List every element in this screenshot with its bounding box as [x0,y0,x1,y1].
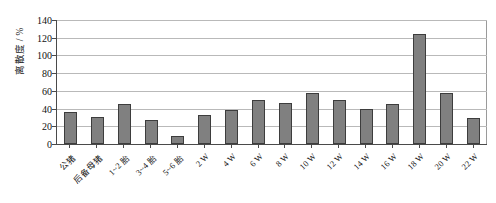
x-axis-tick-mark [69,144,70,148]
x-axis-tick-mark [177,144,178,148]
x-axis-tick-mark [150,144,151,148]
x-axis-label-slot: 6 W [244,149,271,203]
bar-slot [326,20,353,144]
x-axis-label-slot: 16 W [379,149,406,203]
x-axis-tick-label: 2 W [193,151,211,169]
x-axis-tick-label: 18 W [405,151,426,172]
x-axis-label-slot: 2 W [190,149,217,203]
bar [360,109,373,144]
x-axis-label-slot: 18 W [405,149,432,203]
x-axis-tick-mark [231,144,232,148]
x-axis-tick-label: 14 W [351,151,372,172]
bar [91,117,104,144]
bar-slot [111,20,138,144]
bar-slot [406,20,433,144]
x-axis-label-slot: 10 W [298,149,325,203]
bar-slot [138,20,165,144]
x-axis-tick-mark [392,144,393,148]
x-axis-label-slot: 22 W [459,149,486,203]
bar [279,103,292,144]
bar-slot [84,20,111,144]
y-axis-tick-label: 120 [18,32,52,43]
x-axis-tick-mark [258,144,259,148]
x-axis-tick-label: 22 W [459,151,480,172]
y-axis-tick-labels: 140120100806040200 [18,20,52,144]
bar [467,118,480,144]
bar-slot [460,20,487,144]
bar [440,93,453,144]
x-axis-tick-mark [284,144,285,148]
x-axis-tick-label: 10 W [298,151,319,172]
x-axis-label-slot: 5~6 胎 [164,149,191,203]
x-axis-tick-mark [96,144,97,148]
bar-slot [191,20,218,144]
x-axis-label-slot: 14 W [352,149,379,203]
bar [306,93,319,144]
x-axis-label-slot: 20 W [432,149,459,203]
x-axis-tick-mark [446,144,447,148]
x-axis-tick-label: 20 W [432,151,453,172]
y-axis-tick-label: 80 [18,68,52,79]
x-axis-label-slot: 8 W [271,149,298,203]
bar [118,104,131,144]
bar [252,100,265,144]
bar [333,100,346,144]
bar-slot [57,20,84,144]
bar-slot [218,20,245,144]
x-axis-tick-label: 5~6 胎 [159,151,185,177]
bar-slot [245,20,272,144]
plot-area [56,20,487,145]
bar-chart: 离散度 / % 140120100806040200 公猪后备母猪1~2 胎3~… [0,0,496,203]
x-axis-label-slot: 3~4 胎 [137,149,164,203]
y-axis-tick-label: 100 [18,50,52,61]
x-axis-tick-label: 公猪 [56,151,78,173]
bar-slot [353,20,380,144]
bar-slot [380,20,407,144]
bar-slot [272,20,299,144]
x-axis-tick-mark [123,144,124,148]
x-axis-tick-label: 8 W [274,151,292,169]
bar-slot [433,20,460,144]
bar [413,34,426,144]
x-axis-tick-label: 1~2 胎 [105,151,131,177]
x-axis-tick-label: 4 W [220,151,238,169]
x-axis-tick-mark [311,144,312,148]
plot-wrapper [56,20,486,144]
x-axis-label-slot: 1~2 胎 [110,149,137,203]
bar [64,112,77,144]
x-axis-tick-mark [338,144,339,148]
bar [198,115,211,144]
bar [145,120,158,144]
x-axis-tick-mark [365,144,366,148]
x-axis-tick-label: 16 W [378,151,399,172]
x-axis-tick-label: 6 W [247,151,265,169]
x-axis-label-slot: 12 W [325,149,352,203]
bar-series [57,20,487,144]
y-axis-tick-label: 140 [18,15,52,26]
x-axis-tick-mark [204,144,205,148]
bar [225,110,238,144]
y-axis-tick-label: 60 [18,85,52,96]
y-axis-tick-label: 20 [18,121,52,132]
x-axis-label-slot: 后备母猪 [83,149,110,203]
bar-slot [299,20,326,144]
x-axis-tick-labels: 公猪后备母猪1~2 胎3~4 胎5~6 胎2 W4 W6 W8 W10 W12 … [56,149,486,203]
x-axis-tick-label: 3~4 胎 [132,151,158,177]
bar-slot [165,20,192,144]
x-axis-tick-label: 12 W [325,151,346,172]
x-axis-tick-mark [419,144,420,148]
y-axis-tick-label: 0 [18,139,52,150]
bar [386,104,399,144]
x-axis-tick-mark [473,144,474,148]
bar [171,136,184,144]
y-axis-tick-label: 40 [18,103,52,114]
x-axis-label-slot: 4 W [217,149,244,203]
